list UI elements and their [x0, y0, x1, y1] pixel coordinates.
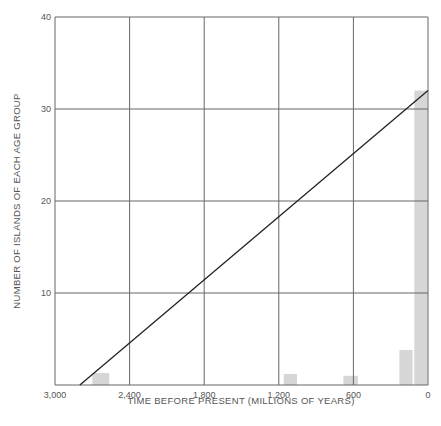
x-axis-label: TIME BEFORE PRESENT (MILLIONS OF YEARS) [127, 395, 354, 406]
histogram-bar [343, 376, 357, 385]
x-tick-label: 0 [425, 390, 430, 400]
histogram-bar [414, 91, 427, 385]
y-tick-label: 30 [41, 104, 51, 114]
grid-lines [55, 17, 428, 385]
histogram-bar [399, 350, 412, 385]
y-tick-label: 10 [41, 288, 51, 298]
y-tick-label: 40 [41, 12, 51, 22]
histogram-bar [92, 373, 109, 385]
trend-line [80, 91, 428, 385]
y-axis-label: NUMBER OF ISLANDS OF EACH AGE GROUP [11, 93, 22, 308]
regression-line [80, 91, 428, 385]
y-axis-ticks: 10203040 [41, 12, 51, 298]
y-tick-label: 20 [41, 196, 51, 206]
island-age-chart: 10203040 3,0002,4001,8001,2006000 TIME B… [0, 0, 441, 426]
histogram-bar [284, 374, 297, 385]
histogram-bars [92, 91, 427, 385]
x-tick-label: 3,000 [44, 390, 67, 400]
